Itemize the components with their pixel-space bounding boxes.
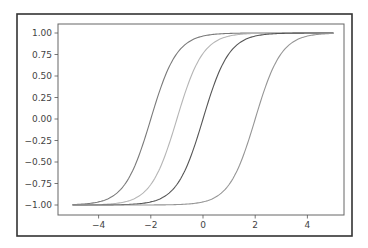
chart-figure: −4−2024 1.000.750.500.250.00−0.25−0.50−0…	[0, 0, 368, 248]
y-tick-label: 0.50	[32, 71, 52, 81]
x-tick-label: 2	[252, 220, 258, 230]
y-tick-label: −1.00	[24, 200, 52, 210]
x-tick-label: 4	[305, 220, 311, 230]
y-tick-label: −0.75	[24, 179, 52, 189]
x-tick-label: −4	[92, 220, 106, 230]
x-tick-label: −2	[144, 220, 157, 230]
y-tick-label: −0.25	[24, 136, 52, 146]
x-tick-label: 0	[200, 220, 206, 230]
y-tick-label: 1.00	[32, 28, 52, 38]
y-tick-label: 0.00	[32, 114, 52, 124]
y-tick-label: 0.75	[32, 50, 52, 60]
plot-area	[58, 24, 344, 215]
y-tick-label: 0.25	[32, 93, 52, 103]
y-tick-label: −0.50	[24, 157, 52, 167]
